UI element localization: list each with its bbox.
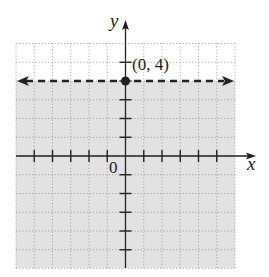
x-axis-label: x — [246, 153, 256, 174]
origin-label: 0 — [109, 158, 118, 177]
inequality-graph: y x 0 (0, 4) — [0, 0, 269, 277]
point-dot — [121, 77, 130, 86]
point-0-4 — [121, 77, 130, 86]
y-axis-label: y — [108, 10, 119, 31]
point-label: (0, 4) — [132, 55, 169, 74]
